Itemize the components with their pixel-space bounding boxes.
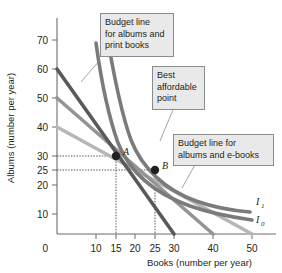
y-tick-70: 70 <box>37 35 49 46</box>
svg-text:1: 1 <box>261 202 265 210</box>
y-tick-40: 40 <box>37 122 49 133</box>
svg-text:0: 0 <box>261 220 265 228</box>
svg-text:I: I <box>255 214 260 225</box>
x-tick-25: 25 <box>149 243 161 254</box>
y-tick-30: 30 <box>37 151 49 162</box>
curve-label-i0: I 0 <box>255 214 265 228</box>
x-tick-50: 50 <box>246 243 258 254</box>
y-tick-labels: 70 60 50 40 30 25 20 10 0 <box>37 35 49 254</box>
x-tick-15: 15 <box>110 243 122 254</box>
svg-text:I: I <box>255 196 260 207</box>
annotation-budget-line-ebooks: Budget line for albums and e-books <box>173 134 274 166</box>
y-tick-60: 60 <box>37 64 49 75</box>
x-tick-labels: 10 15 20 25 30 40 50 <box>90 243 258 254</box>
x-axis-title: Books (number per year) <box>147 257 252 268</box>
point-a-marker <box>112 152 120 160</box>
y-tick-50: 50 <box>37 93 49 104</box>
x-tick-20: 20 <box>129 243 141 254</box>
y-tick-0: 0 <box>42 243 48 254</box>
guide-lines <box>57 156 155 234</box>
leader-ebooks <box>182 163 196 188</box>
x-tick-10: 10 <box>90 243 102 254</box>
x-tick-30: 30 <box>168 243 180 254</box>
y-tick-10: 10 <box>37 209 49 220</box>
x-tick-40: 40 <box>207 243 219 254</box>
annotation-budget-line-print-books: Budget line for albums and print books <box>100 13 174 57</box>
point-a-label: A <box>122 146 130 157</box>
curve-label-i1: I 1 <box>255 196 265 210</box>
leader-print-books <box>81 60 100 82</box>
point-b-marker <box>151 166 159 174</box>
y-tick-20: 20 <box>37 180 49 191</box>
y-tick-25: 25 <box>37 165 49 176</box>
figure-root: 70 60 50 40 30 25 20 10 0 10 15 20 25 30… <box>0 0 282 273</box>
point-b-label: B <box>162 160 168 171</box>
annotation-best-affordable-point: Best affordable point <box>152 66 205 110</box>
budget-line-ebooks <box>57 98 213 234</box>
y-axis-title: Albums (number per year) <box>5 73 16 183</box>
